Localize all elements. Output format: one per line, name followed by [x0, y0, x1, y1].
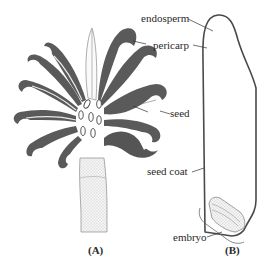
diagram: endosperm pericarp seed seed coat embryo…: [0, 0, 280, 267]
label-seed: seed: [170, 108, 190, 119]
label-endosperm: endosperm: [141, 13, 189, 24]
label-pericarp: pericarp: [153, 40, 189, 51]
fruit-stalk: [80, 158, 107, 232]
fruit-illustration: [14, 28, 167, 232]
ovules: [79, 99, 101, 138]
diagram-artwork: [0, 0, 280, 267]
label-seed-coat: seed coat: [147, 166, 188, 177]
panel-label-b: (B): [225, 245, 240, 256]
seed-section-illustration: [199, 15, 256, 243]
panel-label-a: (A): [88, 245, 103, 256]
label-embryo: embryo: [173, 232, 207, 243]
